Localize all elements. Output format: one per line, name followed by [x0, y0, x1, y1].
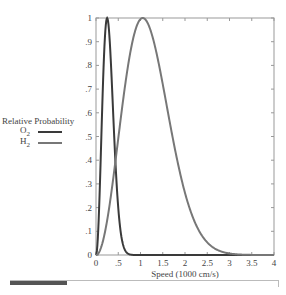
x-tick-label: 2.5	[202, 258, 214, 268]
series-h2-line	[96, 18, 274, 255]
y-tick-label: .4	[85, 155, 92, 165]
x-tick-label: 3.5	[246, 258, 258, 268]
x-tick-label: .5	[115, 258, 122, 268]
y-tick-label: .7	[85, 84, 92, 94]
x-axis-title: Speed (1000 cm/s)	[151, 269, 219, 279]
legend: Relative Probability O2 H2	[2, 116, 97, 148]
y-tick-label: .3	[85, 179, 92, 189]
y-tick-label: .9	[85, 37, 92, 47]
x-tick-label: 2	[183, 258, 188, 268]
y-tick-label: 0	[88, 250, 93, 260]
y-tick-label: .1	[85, 226, 92, 236]
legend-title: Relative Probability	[2, 116, 97, 126]
y-tick-label: .2	[85, 203, 92, 213]
x-tick-label: 1	[138, 258, 143, 268]
data-series	[96, 18, 274, 255]
y-tick-label: .8	[85, 60, 92, 70]
series-o2-line	[96, 18, 274, 255]
x-tick-label: 1.5	[157, 258, 169, 268]
plot-frame	[96, 18, 274, 255]
legend-swatch-o2	[38, 131, 62, 133]
y-tick-label: 1	[88, 13, 93, 23]
x-tick-label: 4	[272, 258, 277, 268]
legend-swatch-h2	[38, 142, 62, 144]
progress-bar	[10, 280, 279, 287]
x-tick-label: 3	[227, 258, 232, 268]
legend-label-h2: H2	[20, 136, 38, 149]
progress-bar-fill	[10, 281, 67, 285]
x-tick-label: 0	[94, 258, 99, 268]
legend-item-h2: H2	[20, 137, 97, 148]
